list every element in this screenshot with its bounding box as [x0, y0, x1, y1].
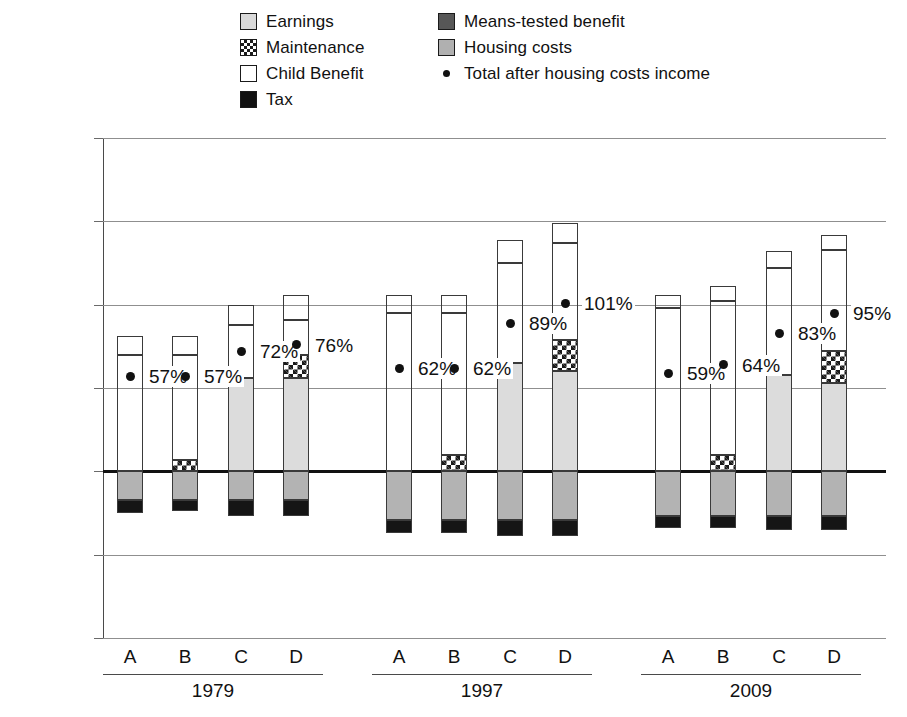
total-marker-1979-B — [181, 372, 190, 381]
legend-item-earnings: Earnings — [240, 8, 364, 34]
group-label-2009: 2009 — [641, 681, 861, 700]
segment-earnings-1979-D — [283, 378, 309, 471]
group-label-1979: 1979 — [103, 681, 323, 700]
segment-housing-1979-D — [283, 471, 309, 499]
total-marker-2009-A — [664, 369, 673, 378]
plot-area: 200150100500-50-100 57%57%72%76%62%62%89… — [103, 138, 886, 638]
bar-2009-B — [710, 138, 736, 638]
segment-child_benefit-2009-B — [710, 286, 736, 301]
y-tick-150 — [94, 221, 103, 222]
segment-child_benefit-1979-C — [228, 305, 254, 325]
segment-maintenance-2009-D — [821, 351, 847, 383]
bar-1979-B — [172, 138, 198, 638]
tax-swatch-icon — [240, 91, 257, 108]
bar-1979-D — [283, 138, 309, 638]
legend-label-housing-costs: Housing costs — [464, 39, 572, 56]
y-tick-0 — [94, 471, 103, 472]
total-marker-label-1979-D: 76% — [313, 335, 355, 356]
legend-label-means-tested-benefit: Means-tested benefit — [464, 13, 625, 30]
y-tick--50 — [94, 555, 103, 556]
segment-housing-1979-B — [172, 471, 198, 499]
bar-1997-D — [552, 138, 578, 638]
segment-tax-1997-D — [552, 520, 578, 537]
bar-1979-C — [228, 138, 254, 638]
legend-item-tax: Tax — [240, 86, 364, 112]
total-marker-label-1979-B: 57% — [202, 366, 244, 387]
segment-housing-2009-D — [821, 471, 847, 516]
segment-tax-1979-C — [228, 500, 254, 517]
segment-child_benefit-2009-A — [655, 295, 681, 308]
bar-2009-C — [766, 138, 792, 638]
segment-child_benefit-1997-A — [386, 295, 412, 313]
chart-legend: Earnings Maintenance Child Benefit Tax M… — [240, 8, 880, 112]
total-marker-1997-A — [395, 364, 404, 373]
legend-item-child-benefit: Child Benefit — [240, 60, 364, 86]
y-tick-100 — [94, 305, 103, 306]
segment-housing-2009-B — [710, 471, 736, 516]
total-marker-1979-A — [126, 372, 135, 381]
y-tick--100 — [94, 638, 103, 639]
segment-means_tested-1997-A — [386, 313, 412, 471]
total-dot-marker-icon — [438, 65, 455, 82]
means-tested-swatch-icon — [438, 13, 455, 30]
segment-maintenance-2009-B — [710, 455, 736, 472]
group-rule-1997 — [372, 674, 592, 675]
x-tick-label-2009-A: A — [655, 647, 681, 666]
segment-earnings-1997-C — [497, 363, 523, 471]
bar-2009-D — [821, 138, 847, 638]
segment-means_tested-1997-B — [441, 313, 467, 455]
bar-1997-C — [497, 138, 523, 638]
total-marker-label-2009-D: 95% — [851, 303, 893, 324]
segment-means_tested-1997-C — [497, 263, 523, 363]
segment-housing-1979-C — [228, 471, 254, 499]
segment-earnings-2009-C — [766, 375, 792, 472]
segment-tax-2009-A — [655, 516, 681, 528]
segment-housing-1979-A — [117, 471, 143, 499]
segment-tax-1997-A — [386, 520, 412, 533]
earnings-swatch-icon — [240, 13, 257, 30]
total-marker-label-1997-D: 101% — [582, 293, 635, 314]
total-marker-label-1997-C: 89% — [527, 313, 569, 334]
total-marker-1979-C — [237, 347, 246, 356]
legend-item-maintenance: Maintenance — [240, 34, 364, 60]
bar-2009-A — [655, 138, 681, 638]
maintenance-swatch-icon — [240, 39, 257, 56]
x-tick-label-1997-C: C — [497, 647, 523, 666]
segment-child_benefit-1997-B — [441, 295, 467, 313]
segment-housing-1997-A — [386, 471, 412, 519]
bar-1997-A — [386, 138, 412, 638]
x-tick-label-1997-D: D — [552, 647, 578, 666]
x-tick-label-2009-C: C — [766, 647, 792, 666]
x-tick-label-1979-C: C — [228, 647, 254, 666]
gridline--100 — [103, 638, 886, 639]
legend-item-means-tested-benefit: Means-tested benefit — [438, 8, 710, 34]
segment-child_benefit-1979-A — [117, 336, 143, 354]
housing-costs-swatch-icon — [438, 39, 455, 56]
segment-housing-2009-A — [655, 471, 681, 516]
x-tick-label-1979-D: D — [283, 647, 309, 666]
segment-maintenance-1979-B — [172, 460, 198, 472]
segment-housing-1997-C — [497, 471, 523, 519]
legend-label-total-income: Total after housing costs income — [464, 65, 710, 82]
segment-tax-2009-C — [766, 516, 792, 529]
segment-maintenance-1997-D — [552, 340, 578, 372]
group-rule-1979 — [103, 674, 323, 675]
total-marker-1997-B — [450, 364, 459, 373]
segment-earnings-1997-D — [552, 371, 578, 471]
segment-tax-1997-C — [497, 520, 523, 537]
x-tick-label-1997-A: A — [386, 647, 412, 666]
legend-column-right: Means-tested benefit Housing costs Total… — [438, 8, 710, 86]
total-marker-1997-D — [561, 299, 570, 308]
segment-housing-1997-D — [552, 471, 578, 519]
legend-column-left: Earnings Maintenance Child Benefit Tax — [240, 8, 364, 112]
x-tick-label-1979-B: B — [172, 647, 198, 666]
child-benefit-swatch-icon — [240, 65, 257, 82]
x-tick-label-1979-A: A — [117, 647, 143, 666]
legend-item-housing-costs: Housing costs — [438, 34, 710, 60]
bar-1979-A — [117, 138, 143, 638]
segment-child_benefit-1979-D — [283, 295, 309, 320]
segment-tax-1979-A — [117, 500, 143, 513]
total-marker-label-2009-C: 83% — [796, 323, 838, 344]
segment-maintenance-1997-B — [441, 455, 467, 472]
total-marker-2009-B — [719, 360, 728, 369]
